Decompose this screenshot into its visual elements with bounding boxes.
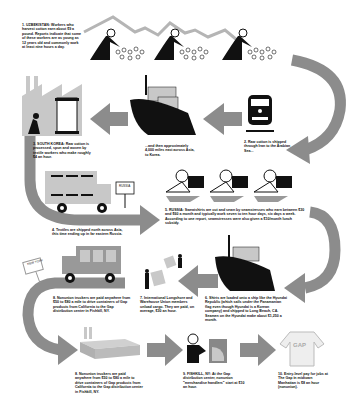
step-5-caption: 5. RUSSIA: Sweatshirts are cut and sewn … (165, 208, 305, 226)
step-4-caption: 4. Textiles are shipped north across Asi… (52, 228, 124, 237)
step-2-caption: 2. Raw cotton is shipped through Iran to… (244, 140, 294, 153)
gap-sweatshirt-icon (280, 328, 325, 368)
cashier-icon (184, 333, 234, 373)
cotton-plants-icon (116, 47, 276, 60)
train-icon (246, 95, 276, 135)
step-8-caption: 8. Nonunion truckers are paid anywhere f… (53, 296, 131, 314)
distribution-center-icon (80, 327, 145, 367)
step-1-caption: 1. UZBEKISTAN: Workers who harvest cotto… (22, 23, 82, 49)
textile-factory-icon (22, 76, 87, 141)
seamstresses-icon (160, 168, 310, 208)
longshore-workers-icon (143, 253, 188, 293)
step-11-caption: 10. Entry-level pay for jobs at The Gap … (278, 372, 328, 390)
textile-truck-icon (45, 166, 165, 216)
step-7-caption: 7. International Longshore and Warehouse… (140, 296, 195, 314)
russia-sign-label: RUSSIA (119, 184, 130, 188)
step-3-caption: 3. SOUTH KOREA: Raw cotton is processed,… (33, 142, 91, 160)
step-9-caption: 8. Nonunion truckers are paid anywhere f… (75, 372, 143, 394)
hyundai-ship-icon (215, 235, 285, 295)
step-10-caption: 9. FISHKILL, NY: At the Gap distribution… (183, 372, 245, 390)
step-2b-caption: ...and then approximately 4,000 miles ea… (145, 144, 195, 157)
gap-logo-label: GAP (293, 342, 306, 348)
step-6-caption: 6. Shirts are loaded onto a ship like th… (205, 296, 287, 322)
cargo-ship-icon (128, 75, 208, 140)
